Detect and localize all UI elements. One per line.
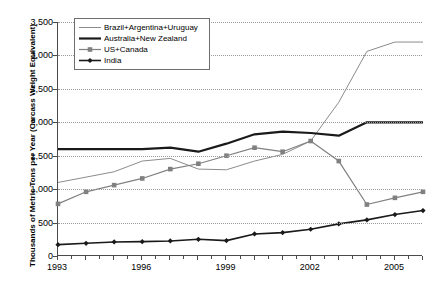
data-point-marker [112, 183, 117, 188]
y-tick-label: 3,000 [30, 50, 53, 60]
x-tick-mark-minor [211, 256, 212, 259]
x-tick-mark [141, 256, 142, 260]
legend-item[interactable]: US+Canada [79, 44, 205, 55]
gridline [58, 156, 422, 157]
data-point-marker [392, 212, 397, 217]
x-tick-label: 1999 [215, 262, 235, 272]
x-tick-label: 2005 [384, 262, 404, 272]
x-tick-mark-minor [324, 256, 325, 259]
y-tick-label: 2,500 [30, 84, 53, 94]
legend-item[interactable]: India [79, 55, 205, 66]
data-point-marker [365, 202, 370, 207]
x-tick-mark [338, 256, 339, 260]
gridline [58, 89, 422, 90]
data-point-marker [56, 202, 61, 207]
legend-label: US+Canada [104, 45, 148, 54]
x-tick-mark-minor [408, 256, 409, 259]
data-point-marker [224, 238, 229, 243]
series-line [58, 211, 423, 245]
y-tick-label: 3,500 [30, 17, 53, 27]
x-tick-mark [422, 256, 423, 260]
series-line [58, 122, 423, 151]
x-tick-mark [225, 256, 226, 260]
data-point-marker [83, 241, 88, 246]
x-tick-label: 1996 [131, 262, 151, 272]
data-point-marker [280, 149, 285, 154]
x-tick-mark-minor [99, 256, 100, 259]
gridline [58, 122, 422, 123]
gridline [58, 223, 422, 224]
y-tick-label: 1,000 [30, 184, 53, 194]
legend-label: India [104, 56, 121, 65]
data-point-marker [308, 139, 313, 144]
x-tick-mark-minor [296, 256, 297, 259]
x-tick-mark [394, 256, 395, 260]
legend-swatch-icon [79, 22, 101, 33]
x-tick-mark [169, 256, 170, 260]
legend-item[interactable]: Brazil+Argentina+Uruguay [79, 22, 205, 33]
gridline [58, 189, 422, 190]
x-tick-mark [310, 256, 311, 260]
y-axis-title: Thousands of Metric Tons per Year (Carca… [28, 6, 37, 286]
x-tick-mark-minor [268, 256, 269, 259]
data-point-marker [393, 196, 398, 201]
x-tick-mark-minor [155, 256, 156, 259]
data-point-marker [252, 145, 257, 150]
data-point-marker [168, 238, 173, 243]
x-tick-mark-minor [380, 256, 381, 259]
x-tick-mark-minor [240, 256, 241, 259]
y-tick-label: 2,000 [30, 117, 53, 127]
data-point-marker [421, 190, 426, 195]
legend-label: Brazil+Argentina+Uruguay [104, 23, 198, 32]
line-chart: Thousands of Metric Tons per Year (Carca… [0, 0, 430, 293]
x-tick-mark [57, 256, 58, 260]
y-tick-label: 1,500 [30, 151, 53, 161]
x-tick-mark [197, 256, 198, 260]
x-tick-mark-minor [352, 256, 353, 259]
data-point-marker [280, 230, 285, 235]
x-tick-mark-minor [71, 256, 72, 259]
legend-label: Australia+New Zealand [104, 34, 187, 43]
legend-swatch-icon [79, 55, 101, 66]
x-tick-label: 1993 [47, 262, 67, 272]
x-tick-label: 2002 [300, 262, 320, 272]
data-point-marker [55, 242, 60, 247]
y-tick-label: 500 [38, 218, 53, 228]
x-tick-mark-minor [127, 256, 128, 259]
data-point-marker [84, 190, 89, 195]
data-point-marker [140, 239, 145, 244]
data-point-marker [308, 227, 313, 232]
legend-swatch-icon [79, 33, 101, 44]
x-tick-mark [366, 256, 367, 260]
data-point-marker [112, 239, 117, 244]
data-point-marker [140, 176, 145, 181]
legend-swatch-icon [79, 44, 101, 55]
chart-legend: Brazil+Argentina+UruguayAustralia+New Ze… [74, 18, 210, 70]
series-line [58, 141, 423, 205]
x-tick-mark [113, 256, 114, 260]
x-tick-mark [85, 256, 86, 260]
data-point-marker [168, 167, 173, 172]
x-tick-mark [254, 256, 255, 260]
x-tick-mark-minor [183, 256, 184, 259]
data-point-marker [196, 161, 201, 166]
legend-item[interactable]: Australia+New Zealand [79, 33, 205, 44]
data-point-marker [196, 237, 201, 242]
data-point-marker [420, 208, 425, 213]
data-point-marker [336, 159, 341, 164]
x-tick-mark [282, 256, 283, 260]
data-point-marker [252, 231, 257, 236]
